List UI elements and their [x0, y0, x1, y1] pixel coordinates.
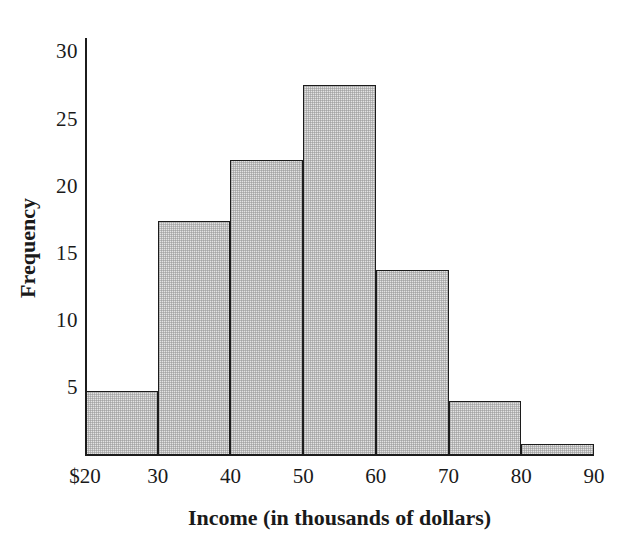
histogram-bar-bin-70-80 — [449, 401, 522, 456]
histogram-bar-bin-30-40 — [158, 221, 231, 456]
y-tick-label-25: 25 — [36, 109, 78, 130]
x-tick-label-20: $20 — [69, 464, 101, 488]
x-tick-label-40: 40 — [220, 464, 241, 488]
x-tick-label-60: 60 — [365, 464, 386, 488]
x-tick-label-90: 90 — [584, 464, 605, 488]
histogram-bar-bin-40-50 — [230, 160, 303, 456]
x-tick-label-30: 30 — [147, 464, 168, 488]
y-tick-label-10: 10 — [36, 310, 78, 331]
y-axis-line — [85, 38, 87, 456]
y-tick-label-30: 30 — [36, 41, 78, 62]
y-tick-label-5: 5 — [36, 377, 78, 398]
histogram-figure: 30252015105 $2030405060708090 Income (in… — [0, 0, 638, 549]
histogram-bar-bin-60-70 — [376, 270, 449, 456]
x-tick-label-80: 80 — [511, 464, 532, 488]
x-tick-label-50: 50 — [293, 464, 314, 488]
plot-area: 30252015105 $2030405060708090 Income (in… — [0, 0, 638, 549]
histogram-bar-bin-50-60 — [303, 85, 376, 456]
y-tick-label-15: 15 — [36, 243, 78, 264]
histogram-bar-bin-20-30 — [85, 391, 158, 456]
y-tick-label-20: 20 — [36, 176, 78, 197]
x-axis-line — [85, 454, 594, 456]
x-tick-label-70: 70 — [438, 464, 459, 488]
y-axis-title: Frequency — [16, 158, 40, 338]
x-axis-title: Income (in thousands of dollars) — [85, 505, 594, 531]
